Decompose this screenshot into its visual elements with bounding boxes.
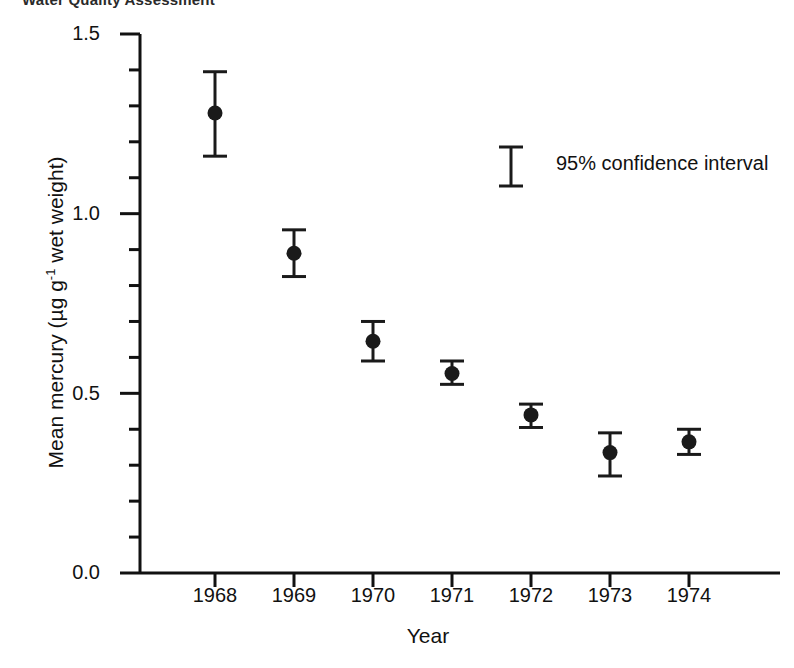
y-tick-label-1-5: 1.5 — [44, 22, 100, 45]
legend-errorbar-sample — [499, 147, 523, 186]
marker-1968 — [208, 106, 223, 121]
marker-1970 — [366, 334, 381, 349]
x-tick-label-1970: 1970 — [333, 584, 413, 607]
x-tick-label-1968: 1968 — [175, 584, 255, 607]
marker-1973 — [603, 445, 618, 460]
data-point-1972 — [519, 404, 543, 427]
y-axis-title-main: Mean mercury (µg g — [44, 280, 67, 468]
x-tick-label-1971: 1971 — [412, 584, 492, 607]
data-point-1973 — [598, 433, 622, 476]
x-tick-label-1974: 1974 — [649, 584, 729, 607]
data-point-1971 — [440, 361, 464, 384]
y-axis-title-exponent: -1 — [43, 269, 58, 281]
y-axis-title: Mean mercury (µg g-1 wet weight) — [43, 83, 68, 543]
x-axis-title: Year — [328, 624, 528, 648]
marker-1969 — [287, 246, 302, 261]
marker-1971 — [445, 366, 460, 381]
marker-1974 — [682, 434, 697, 449]
x-tick-label-1972: 1972 — [491, 584, 571, 607]
data-point-1969 — [282, 230, 306, 277]
y-tick-label-0-0: 0.0 — [44, 561, 100, 584]
marker-1972 — [524, 407, 539, 422]
x-tick-label-1973: 1973 — [570, 584, 650, 607]
data-point-group — [203, 72, 701, 476]
y-tick-label-0-5: 0.5 — [44, 382, 100, 405]
y-tick-label-1-0: 1.0 — [44, 202, 100, 225]
y-tick-marks — [120, 34, 140, 573]
data-point-1974 — [677, 429, 701, 454]
plot-canvas — [0, 0, 794, 668]
axes-group — [140, 34, 780, 573]
x-tick-label-1969: 1969 — [254, 584, 334, 607]
data-point-1968 — [203, 72, 227, 156]
mercury-trend-chart: Water Quality Assessment Mean mercury (µ… — [0, 0, 794, 668]
legend-label-confidence-interval: 95% confidence interval — [556, 152, 768, 175]
top-caption-cutoff: Water Quality Assessment — [22, 0, 382, 9]
data-point-1970 — [361, 321, 385, 361]
